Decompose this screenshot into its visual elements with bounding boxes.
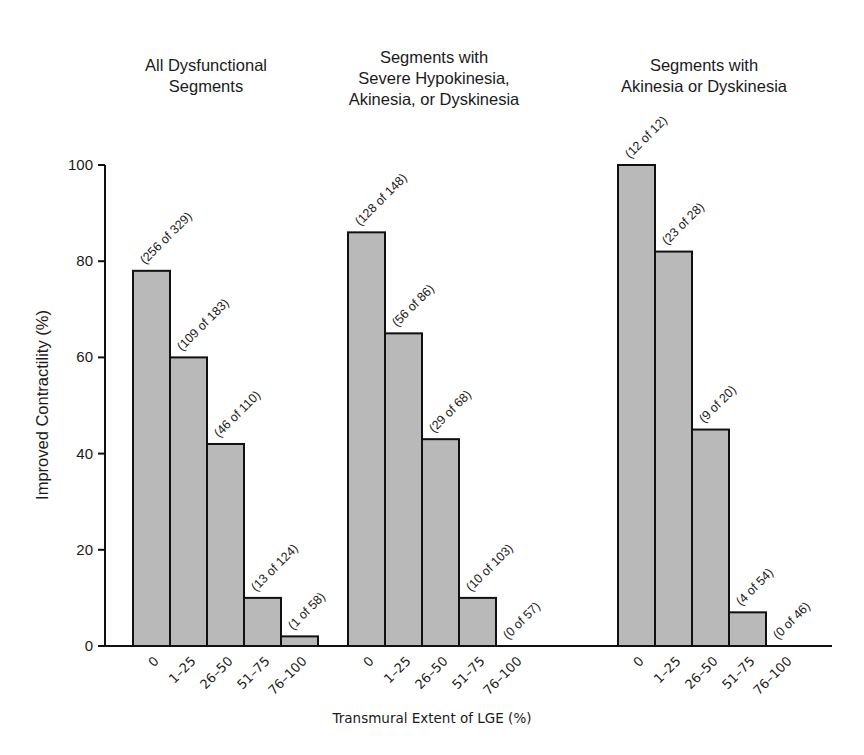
bar-annotation: (10 of 103) — [463, 541, 516, 594]
bar-chart: All DysfunctionalSegmentsSegments withSe… — [0, 0, 864, 755]
x-category-labels: 01–2526–5051–7576–10001–2526–5051–7576–1… — [145, 654, 794, 698]
y-tick-label: 40 — [76, 445, 93, 462]
y-axis-label: Improved Contractility (%) — [33, 310, 51, 500]
bar — [348, 232, 385, 646]
bar-annotation: (13 of 124) — [248, 541, 301, 594]
bar — [170, 357, 207, 646]
bar-annotation: (56 of 86) — [389, 282, 437, 330]
panel-title: All Dysfunctional — [145, 56, 267, 74]
x-category-label: 76–100 — [265, 654, 309, 698]
bar-annotation: (12 of 12) — [622, 113, 670, 161]
bar-annotation: (29 of 68) — [426, 388, 474, 436]
bar-annotation: (46 of 110) — [211, 388, 263, 440]
y-tick-label: 80 — [76, 252, 93, 269]
bar — [655, 252, 692, 646]
y-tick-label: 20 — [76, 541, 93, 558]
bar-annotation: (256 of 329) — [137, 209, 195, 267]
bar — [207, 444, 244, 646]
panel-title: Severe Hypokinesia, — [358, 69, 509, 87]
y-tick-label: 100 — [68, 156, 93, 173]
bar-annotation: (1 of 58) — [285, 590, 328, 633]
bar-annotation: (23 of 28) — [659, 200, 707, 248]
panel-title: Segments with — [380, 48, 488, 66]
bar — [133, 271, 170, 646]
x-category-label: 26–50 — [412, 654, 451, 693]
bar-annotation: (109 of 183) — [174, 296, 232, 354]
bar — [692, 430, 729, 646]
x-category-label: 0 — [360, 654, 376, 670]
x-category-label: 1–25 — [381, 654, 414, 687]
bar — [422, 439, 459, 646]
x-category-label: 1–25 — [651, 654, 684, 687]
bar-annotation: (0 of 46) — [770, 599, 813, 642]
y-tick-label: 0 — [85, 637, 93, 654]
bar-annotation: (0 of 57) — [500, 599, 543, 642]
panel-title: Segments — [169, 77, 243, 95]
bar-annotation: (4 of 54) — [733, 566, 776, 609]
x-category-label: 26–50 — [682, 654, 721, 693]
x-category-label: 1–25 — [166, 654, 199, 687]
x-category-label: 76–100 — [480, 654, 524, 698]
bar — [244, 598, 281, 646]
panel-title: Akinesia or Dyskinesia — [621, 77, 788, 95]
bar — [385, 333, 422, 646]
x-category-label: 26–50 — [197, 654, 236, 693]
x-category-label: 76–100 — [750, 654, 794, 698]
panel-title: Akinesia, or Dyskinesia — [349, 90, 520, 108]
x-category-label: 0 — [145, 654, 161, 670]
y-tick-label: 60 — [76, 348, 93, 365]
x-axis-label: Transmural Extent of LGE (%) — [332, 710, 532, 726]
bar — [459, 598, 496, 646]
bar — [729, 612, 766, 646]
bar-annotation: (128 of 148) — [352, 171, 410, 229]
panel-title: Segments with — [650, 56, 758, 74]
panel-titles: All DysfunctionalSegmentsSegments withSe… — [145, 48, 788, 108]
bar — [281, 636, 318, 646]
bar-annotation: (9 of 20) — [696, 383, 739, 426]
bar — [618, 165, 655, 646]
x-category-label: 0 — [630, 654, 646, 670]
